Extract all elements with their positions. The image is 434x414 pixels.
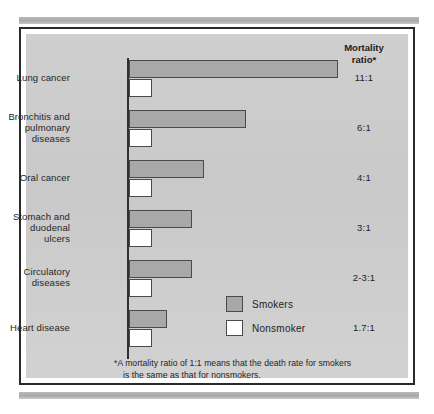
bar-smokers-oral-cancer <box>129 160 204 178</box>
legend-label-smokers: Smokers <box>252 299 293 310</box>
chart-legend: Smokers Nonsmoker <box>226 296 305 344</box>
bar-smokers-circulatory <box>129 260 192 278</box>
category-label-line2: diseases <box>32 277 70 288</box>
mortality-ratio-stomach-ulcers: 3:1 <box>326 222 402 233</box>
mortality-ratio-lung-cancer: 11:1 <box>326 72 402 83</box>
bar-group-lung-cancer: Lung cancer 11:1 <box>26 58 408 108</box>
bar-nonsmoker-stomach-ulcers <box>129 229 152 247</box>
legend-label-nonsmoker: Nonsmoker <box>252 323 305 334</box>
bar-nonsmoker-lung-cancer <box>129 79 152 97</box>
decorative-rule-bottom <box>19 392 419 399</box>
legend-item-smokers: Smokers <box>226 296 305 312</box>
category-label-line1: Bronchitis and <box>8 111 70 122</box>
decorative-rule-top <box>19 17 419 24</box>
category-label-bronchitis: Bronchitis and pulmonary diseases <box>0 111 70 144</box>
bar-smokers-heart-disease <box>129 310 167 328</box>
category-label-line2: duodenal <box>30 222 70 233</box>
mortality-ratio-oral-cancer: 4:1 <box>326 172 402 183</box>
legend-item-nonsmoker: Nonsmoker <box>226 320 305 336</box>
bar-group-circulatory: Circulatory diseases 2-3:1 <box>26 258 408 308</box>
mortality-ratio-heart-disease: 1.7:1 <box>326 322 402 333</box>
bar-group-heart-disease: Heart disease 1.7:1 <box>26 308 408 358</box>
mortality-ratio-circulatory: 2-3:1 <box>326 272 402 283</box>
footnote-line1: *A mortality ratio of 1:1 means that the… <box>114 358 351 368</box>
category-label-oral-cancer: Oral cancer <box>0 172 70 183</box>
category-label-line1: Heart disease <box>10 322 70 333</box>
bar-nonsmoker-bronchitis <box>129 129 152 147</box>
bar-smokers-lung-cancer <box>129 60 338 78</box>
bar-nonsmoker-heart-disease <box>129 329 152 347</box>
category-label-line1: Lung cancer <box>17 72 70 83</box>
figure-plate: Mortality ratio* Lung cancer 11:1 Bronch… <box>26 34 408 378</box>
category-label-line3: diseases <box>32 133 70 144</box>
bar-nonsmoker-oral-cancer <box>129 179 152 197</box>
bar-nonsmoker-circulatory <box>129 279 152 297</box>
figure-frame: Mortality ratio* Lung cancer 11:1 Bronch… <box>19 27 415 385</box>
category-label-line1: Oral cancer <box>20 172 70 183</box>
footnote-line2: is the same as that for nonsmokers. <box>114 370 382 382</box>
bar-group-bronchitis: Bronchitis and pulmonary diseases 6:1 <box>26 108 408 158</box>
category-label-heart-disease: Heart disease <box>0 322 70 333</box>
category-label-line1: Stomach and <box>13 211 70 222</box>
category-label-lung-cancer: Lung cancer <box>0 72 70 83</box>
bar-smokers-bronchitis <box>129 110 246 128</box>
bar-smokers-stomach-ulcers <box>129 210 192 228</box>
bar-group-oral-cancer: Oral cancer 4:1 <box>26 158 408 208</box>
mortality-ratio-header-line1: Mortality <box>344 42 384 53</box>
bar-group-stomach-ulcers: Stomach and duodenal ulcers 3:1 <box>26 208 408 258</box>
category-label-circulatory: Circulatory diseases <box>0 266 70 288</box>
category-label-line3: ulcers <box>44 233 70 244</box>
bar-chart: Mortality ratio* Lung cancer 11:1 Bronch… <box>26 34 408 378</box>
legend-swatch-smokers-icon <box>226 296 243 312</box>
category-label-line2: pulmonary <box>25 122 70 133</box>
legend-swatch-nonsmoker-icon <box>226 320 243 336</box>
category-label-stomach-ulcers: Stomach and duodenal ulcers <box>0 211 70 244</box>
category-label-line1: Circulatory <box>24 266 71 277</box>
chart-footnote: *A mortality ratio of 1:1 means that the… <box>114 358 382 381</box>
mortality-ratio-bronchitis: 6:1 <box>326 122 402 133</box>
